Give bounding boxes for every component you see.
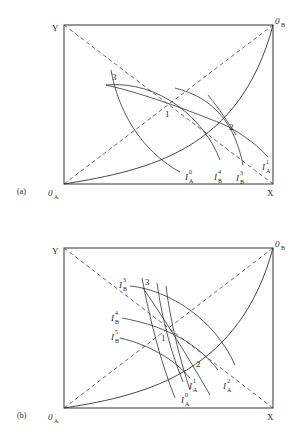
- edgeworth-box-figure: 3 1 2 I A 0 I B 4 I B 3 I A 1 Y 0 B 0 A …: [0, 0, 298, 446]
- point-3-b: 3: [145, 277, 150, 287]
- indifference-curve-ia0-a: [111, 70, 180, 172]
- svg-text:A: A: [193, 387, 198, 393]
- corner-oa-b: 0: [48, 412, 53, 422]
- corner-x-b: X: [267, 412, 274, 422]
- corner-y-b: Y: [52, 246, 59, 256]
- svg-text:3: 3: [240, 170, 243, 176]
- svg-text:2: 2: [227, 378, 230, 384]
- label-ia2-b: I A 2: [222, 378, 232, 393]
- svg-text:B: B: [115, 338, 119, 344]
- label-ia0-b: I A 0: [180, 392, 190, 407]
- panel-a: 3 1 2 I A 0 I B 4 I B 3 I A 1 Y 0 B 0 A …: [17, 16, 285, 200]
- panel-tag-a: (a): [17, 187, 26, 196]
- label-ia1-a: I A 1: [261, 159, 271, 174]
- svg-text:3: 3: [123, 277, 126, 283]
- corner-ob-sub-a: B: [281, 22, 285, 28]
- svg-text:B: B: [123, 286, 127, 292]
- svg-text:4: 4: [115, 310, 118, 316]
- label-ib5-b: I B 5: [110, 329, 119, 344]
- svg-text:B: B: [218, 178, 222, 184]
- contract-curve-b: [64, 248, 273, 408]
- edgeworth-box-b: [64, 248, 273, 408]
- label-ib3-b: I B 3: [118, 277, 127, 292]
- point-2-a: 2: [229, 122, 234, 132]
- svg-text:A: A: [227, 387, 232, 393]
- svg-text:1: 1: [193, 378, 196, 384]
- svg-text:A: A: [185, 401, 190, 407]
- corner-oa-sub-a: A: [54, 194, 59, 200]
- corner-ob-sub-b: B: [281, 245, 285, 251]
- svg-text:1: 1: [266, 159, 269, 165]
- corner-y-a: Y: [52, 23, 59, 33]
- svg-text:B: B: [240, 179, 244, 185]
- svg-text:0: 0: [189, 169, 192, 175]
- label-ib3-a: I B 3: [235, 170, 244, 185]
- corner-oa-sub-b: A: [54, 418, 59, 424]
- svg-text:4: 4: [218, 169, 221, 175]
- label-ia1-b: I A 1: [188, 378, 198, 393]
- point-1-b: 1: [161, 333, 166, 343]
- corner-oa-a: 0: [48, 188, 53, 198]
- point-2-b: 2: [196, 359, 201, 369]
- indifference-curve-ia0-b: [142, 278, 175, 398]
- svg-text:5: 5: [115, 329, 118, 335]
- panel-b: 3 1 2 I B 3 I B 4 I B 5 I A 1 I A 0 I: [17, 239, 285, 424]
- diagonal-oa-ob-b: [64, 248, 273, 408]
- indifference-curve-ia1-a: [106, 85, 268, 157]
- diagonal-y-x-b: [64, 248, 273, 408]
- svg-text:A: A: [189, 178, 194, 184]
- point-1-a: 1: [165, 109, 170, 119]
- corner-x-a: X: [267, 188, 274, 198]
- svg-text:0: 0: [185, 392, 188, 398]
- label-ia0-a: I A 0: [184, 169, 194, 184]
- corner-ob-a: 0: [275, 16, 280, 26]
- label-ib4-a: I B 4: [213, 169, 222, 184]
- svg-text:A: A: [266, 168, 271, 174]
- panel-tag-b: (b): [17, 411, 27, 420]
- corner-ob-b: 0: [275, 239, 280, 249]
- point-3-a: 3: [112, 72, 117, 82]
- svg-text:B: B: [115, 319, 119, 325]
- indifference-curve-ib4-a: [106, 85, 220, 160]
- label-ib4-b: I B 4: [110, 310, 119, 325]
